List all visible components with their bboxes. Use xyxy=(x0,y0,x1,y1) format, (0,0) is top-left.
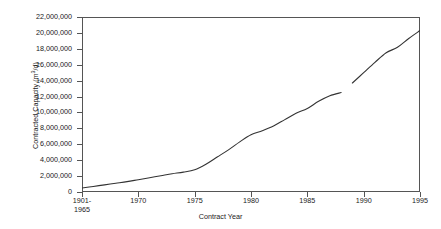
x-axis-tick-label-line: 1990 xyxy=(341,196,387,205)
x-axis-tick-label-line: 1975 xyxy=(172,196,218,205)
x-axis-tick-label: 1995 xyxy=(397,196,441,205)
x-axis: 1901-1965197019751980198519901995 xyxy=(0,0,441,229)
x-axis-tick-label: 1980 xyxy=(228,196,274,205)
x-axis-tick-label: 1990 xyxy=(341,196,387,205)
x-axis-tick-label-line: 1995 xyxy=(397,196,441,205)
x-axis-tick-label-line: 1985 xyxy=(284,196,330,205)
x-axis-tick-label: 1985 xyxy=(284,196,330,205)
chart-figure: Contracted Capacity (m3/d) 22,000,00020,… xyxy=(0,0,441,229)
x-axis-tick-label-line: 1901- xyxy=(59,196,105,205)
x-axis-tick-label-line: 1980 xyxy=(228,196,274,205)
x-axis-tick-label-line: 1970 xyxy=(115,196,161,205)
x-axis-label: Contract Year xyxy=(0,212,441,221)
x-axis-tick-label: 1970 xyxy=(115,196,161,205)
x-axis-tick-label: 1975 xyxy=(172,196,218,205)
